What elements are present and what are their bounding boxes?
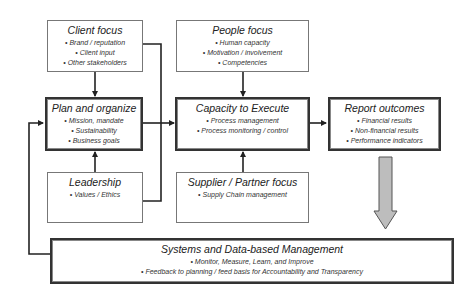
bullet-list: Mission, mandate Sustainability Business… [47, 116, 141, 146]
box-supplier-partner-focus: Supplier / Partner focus Supply Chain ma… [176, 172, 309, 223]
bullet-list: Values / Ethics [48, 190, 142, 200]
bullet-item: Supply Chain management [177, 190, 308, 200]
bullet-item: Client input [48, 48, 142, 58]
bullet-item: Feedback to planning / feed basis for Ac… [52, 267, 452, 277]
bullet-item: Sustainability [47, 126, 141, 136]
box-leadership: Leadership Values / Ethics [47, 172, 143, 223]
bullet-item: Business goals [47, 136, 141, 146]
bullet-item: Process management [177, 116, 308, 126]
box-title: Systems and Data-based Management [52, 243, 452, 256]
bullet-item: Performance indicators [330, 136, 439, 146]
bullet-list: Monitor, Measure, Learn, and Improve Fee… [52, 257, 452, 277]
box-people-focus: People focus Human capacity Motivation /… [176, 20, 309, 72]
bullet-item: Motivation / involvement [177, 48, 308, 58]
bullet-list: Supply Chain management [177, 190, 308, 200]
bullet-list: Human capacity Motivation / involvement … [177, 38, 308, 68]
diagram-canvas: Client focus Brand / reputation Client i… [0, 0, 464, 301]
box-title: Supplier / Partner focus [177, 176, 308, 189]
bullet-item: Monitor, Measure, Learn, and Improve [52, 257, 452, 267]
box-title: Client focus [48, 24, 142, 37]
box-title: Report outcomes [330, 102, 439, 115]
bullet-item: Non-financial results [330, 126, 439, 136]
bullet-item: Competencies [177, 58, 308, 68]
bullet-item: Brand / reputation [48, 38, 142, 48]
box-title: Plan and organize [47, 102, 141, 115]
bullet-list: Financial results Non-financial results … [330, 116, 439, 146]
bullet-item: Process monitoring / control [177, 126, 308, 136]
bullet-item: Mission, mandate [47, 116, 141, 126]
box-report-outcomes: Report outcomes Financial results Non-fi… [328, 97, 441, 151]
bullet-list: Brand / reputation Client input Other st… [48, 38, 142, 68]
bullet-item: Values / Ethics [48, 190, 142, 200]
bullet-item: Financial results [330, 116, 439, 126]
bullet-item: Other stakeholders [48, 58, 142, 68]
box-title: People focus [177, 24, 308, 37]
box-capacity-to-execute: Capacity to Execute Process management P… [175, 97, 310, 151]
box-systems-data-management: Systems and Data-based Management Monito… [50, 238, 454, 284]
block-arrow-down-icon [374, 157, 397, 229]
box-client-focus: Client focus Brand / reputation Client i… [47, 20, 143, 72]
bullet-list: Process management Process monitoring / … [177, 116, 308, 136]
box-title: Capacity to Execute [177, 102, 308, 115]
bullet-item: Human capacity [177, 38, 308, 48]
box-plan-and-organize: Plan and organize Mission, mandate Susta… [45, 97, 143, 151]
box-title: Leadership [48, 176, 142, 189]
